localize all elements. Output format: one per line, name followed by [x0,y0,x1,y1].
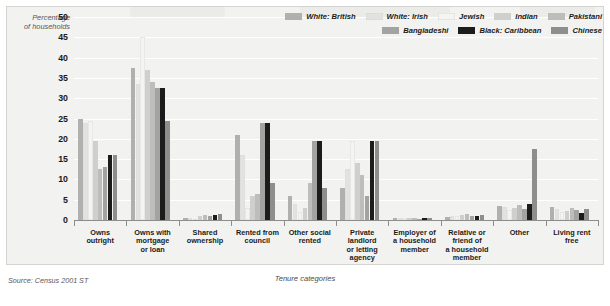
bar [345,169,350,220]
bar [140,37,145,220]
chart-legend: White: BritishWhite: IrishJewishIndianPa… [262,12,602,40]
legend-item[interactable]: White: Irish [366,12,428,21]
bar [550,207,555,220]
legend-swatch-icon [551,27,568,34]
x-category-label: Relative orfriend ofa householdmember [441,229,493,263]
x-axis-title: Tenure categories [0,274,610,283]
plot-area: 05101520253035404550 [74,17,598,220]
x-tick [74,220,75,226]
bar [113,155,118,220]
bar [502,207,507,220]
x-category-label-line: member [388,246,440,254]
legend-item[interactable]: Pakistani [548,12,602,21]
bar [160,88,165,220]
bar [317,141,322,220]
bar [98,169,103,220]
bar [250,196,255,220]
bar [83,123,88,220]
bar [340,188,345,220]
legend-swatch-icon [366,13,383,20]
x-category-label-line: outright [74,237,126,245]
x-category-label: Other socialrented [284,229,336,246]
bar [350,141,355,220]
legend-row-2: BangladeshiBlack: CaribbeanChinese [262,26,602,35]
x-category-label-line: free [546,237,598,245]
bar [150,82,155,220]
bar [88,121,93,220]
bar [240,155,245,220]
x-tick [336,220,337,226]
legend-item[interactable]: Jewish [438,12,484,21]
source-note: Source: Census 2001 ST [8,276,88,285]
bar [507,210,512,220]
legend-row-1: White: BritishWhite: IrishJewishIndianPa… [262,12,602,21]
legend-label: Black: Caribbean [479,26,541,35]
x-category-label-line: Other [493,229,545,237]
legend-item[interactable]: Indian [494,12,537,21]
x-tick [388,220,389,226]
legend-item[interactable]: White: British [285,12,355,21]
y-tick-label-20: 20 [34,134,68,144]
bar [517,205,522,220]
bar [532,149,537,220]
bar [565,211,570,220]
x-category-label: Owns withmortgageor loan [126,229,178,254]
bar [574,210,579,220]
x-tick [231,220,232,226]
bar-group [393,17,433,220]
bar-group [550,17,590,220]
legend-item[interactable]: Bangladeshi [382,26,448,35]
bar [265,123,270,220]
legend-swatch-icon [458,27,475,34]
bar [245,208,250,220]
bar [93,141,98,220]
x-category-label-line: member [441,254,493,262]
x-tick [441,220,442,226]
bar [375,141,380,220]
legend-item[interactable]: Black: Caribbean [458,26,541,35]
legend-label: Bangladeshi [403,26,448,35]
legend-label: White: Irish [387,12,428,21]
x-category-label: Privatelandlordor lettingagency [336,229,388,263]
x-tick [284,220,285,226]
legend-label: White: British [306,12,355,21]
y-tick-label-0: 0 [34,215,68,225]
y-tick-label-30: 30 [34,93,68,103]
bar [260,123,265,220]
bar [288,196,293,220]
bar-group [235,17,275,220]
x-category-label-line: rented [284,237,336,245]
y-tick-label-25: 25 [34,114,68,124]
bar-group [445,17,485,220]
legend-label: Indian [515,12,537,21]
y-tick-label-5: 5 [34,195,68,205]
x-tick [493,220,494,226]
legend-item[interactable]: Chinese [551,26,602,35]
bar [322,188,327,220]
chart-figure: Percentage of households 051015202530354… [0,0,610,306]
y-tick-label-50: 50 [34,12,68,22]
y-axis-title-line2: of households [8,23,70,32]
bar [312,141,317,220]
x-tick [546,220,547,226]
bar-group [131,17,171,220]
bar-group [288,17,328,220]
x-category-label: Sharedownership [179,229,231,246]
bar-group [497,17,537,220]
x-category-label: Employer ofa householdmember [388,229,440,254]
bar-group [78,17,118,220]
plot-inner [74,17,598,220]
bar [108,155,113,220]
x-category-label: Ownsoutright [74,229,126,246]
bar [497,206,502,220]
bar [555,209,560,220]
bar [255,194,260,220]
legend-swatch-icon [438,13,455,20]
x-category-label-line: ownership [179,237,231,245]
bar [298,212,303,220]
bar [512,208,517,220]
legend-swatch-icon [494,13,511,20]
y-tick-label-15: 15 [34,154,68,164]
bar [570,208,575,220]
bar [165,121,170,220]
